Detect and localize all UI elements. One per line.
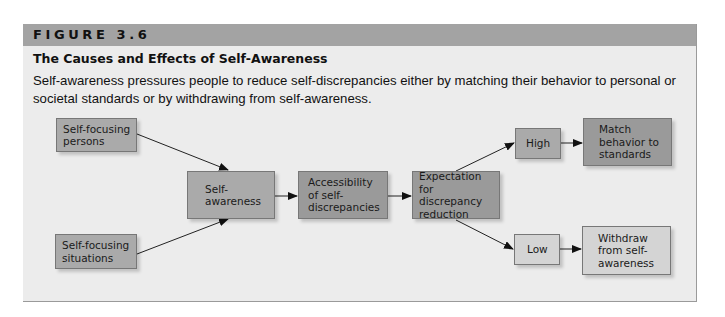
node-expectation-for-discrepancy-reduction: Expectation for discrepancy reduction xyxy=(412,171,500,219)
node-label: Accessibility of self- discrepancies xyxy=(308,176,380,214)
node-high: High xyxy=(515,128,561,159)
arrow-situations-to-self-awareness xyxy=(137,219,228,254)
node-withdraw-from-self-awareness: Withdraw from self- awareness xyxy=(582,226,671,275)
node-label: Withdraw from self- awareness xyxy=(598,232,654,270)
node-label: Low xyxy=(527,243,548,256)
arrow-expectation-to-high xyxy=(456,143,514,171)
arrow-expectation-to-low xyxy=(456,220,513,249)
node-label: Self- awareness xyxy=(205,183,261,208)
node-self-awareness: Self- awareness xyxy=(187,171,275,219)
node-label: High xyxy=(526,137,550,150)
node-self-focusing-persons: Self-focusing persons xyxy=(56,118,137,152)
node-label: Self-focusing situations xyxy=(62,239,129,264)
node-accessibility-of-self-discrepancies: Accessibility of self- discrepancies xyxy=(298,171,388,219)
node-label: Match behavior to standards xyxy=(599,123,659,161)
node-low: Low xyxy=(514,234,560,265)
node-match-behavior-to-standards: Match behavior to standards xyxy=(583,118,672,166)
node-self-focusing-situations: Self-focusing situations xyxy=(55,234,137,269)
node-label: Expectation for discrepancy reduction xyxy=(419,170,499,220)
arrow-persons-to-self-awareness xyxy=(137,134,228,170)
node-label: Self-focusing persons xyxy=(63,123,130,148)
